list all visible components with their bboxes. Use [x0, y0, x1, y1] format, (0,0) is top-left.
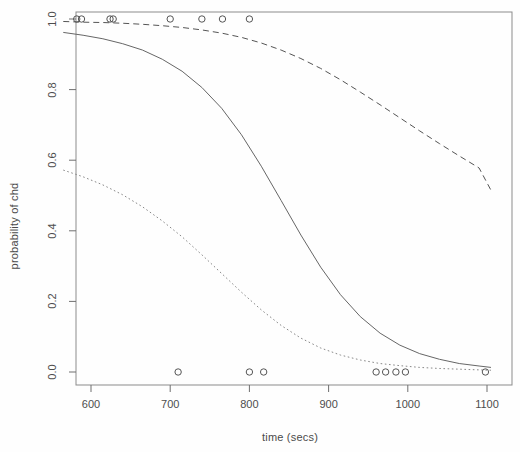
series-line-1 — [63, 32, 491, 367]
x-tick-label: 700 — [161, 398, 179, 410]
series-layer — [63, 21, 491, 370]
x-tick-label: 900 — [319, 398, 337, 410]
data-point — [373, 369, 379, 375]
y-tick-label: 0.0 — [46, 364, 58, 379]
chart-canvas — [0, 0, 520, 452]
data-point — [246, 16, 252, 22]
data-point — [199, 16, 205, 22]
y-tick-label: 0.4 — [46, 223, 58, 238]
axis-ticks — [69, 19, 487, 392]
data-point — [219, 16, 225, 22]
y-tick-label: 0.2 — [46, 294, 58, 309]
x-axis-title: time (secs) — [262, 431, 318, 443]
x-tick-label: 1100 — [475, 398, 499, 410]
x-tick-label: 800 — [240, 398, 258, 410]
chart-container: probability of chd time (secs) 0.00.20.4… — [0, 0, 520, 452]
x-tick-label: 1000 — [396, 398, 420, 410]
data-point — [167, 16, 173, 22]
data-point — [393, 369, 399, 375]
y-tick-label: 1.0 — [46, 11, 58, 26]
data-points-layer — [74, 16, 489, 375]
data-point — [402, 369, 408, 375]
x-tick-label: 600 — [82, 398, 100, 410]
y-tick-label: 0.6 — [46, 153, 58, 168]
y-tick-label: 0.8 — [46, 82, 58, 97]
plot-frame — [76, 12, 512, 385]
series-line-2 — [63, 170, 491, 370]
data-point — [78, 16, 84, 22]
data-point — [382, 369, 388, 375]
series-line-0 — [63, 21, 491, 190]
data-point — [246, 369, 252, 375]
data-point — [260, 369, 266, 375]
y-axis-title: probability of chd — [8, 183, 20, 270]
data-point — [175, 369, 181, 375]
